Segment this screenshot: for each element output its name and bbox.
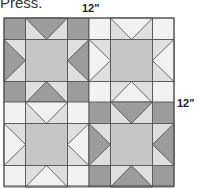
quilt-block-bottom-left xyxy=(4,102,89,187)
center-square xyxy=(111,40,153,82)
corner-square xyxy=(68,102,90,124)
corner-square xyxy=(153,18,175,40)
corner-square xyxy=(4,166,26,188)
corner-square xyxy=(68,166,90,188)
corner-square xyxy=(89,102,111,124)
corner-square xyxy=(4,18,26,40)
center-square xyxy=(26,124,68,166)
corner-square xyxy=(4,82,26,104)
corner-square xyxy=(68,82,90,104)
corner-square xyxy=(153,82,175,104)
corner-square xyxy=(153,166,175,188)
center-square xyxy=(26,40,68,82)
quilt-diagram xyxy=(0,0,200,189)
center-square xyxy=(111,124,153,166)
corner-square xyxy=(89,18,111,40)
corner-square xyxy=(68,18,90,40)
quilt-block-bottom-right xyxy=(89,102,174,187)
corner-square xyxy=(153,102,175,124)
quilt-block-top-left xyxy=(4,18,89,103)
corner-square xyxy=(89,166,111,188)
corner-square xyxy=(4,102,26,124)
quilt-block-top-right xyxy=(89,18,174,103)
corner-square xyxy=(89,82,111,104)
